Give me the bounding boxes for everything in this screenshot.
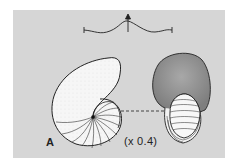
shell-apertural-view (153, 53, 211, 143)
shell-lateral-view (52, 58, 122, 148)
scale-annotation: (x 0.4) (124, 135, 157, 147)
nautilus-illustration (0, 0, 236, 167)
panel-label: A (46, 136, 54, 148)
symmetry-axis-icon (84, 14, 172, 33)
